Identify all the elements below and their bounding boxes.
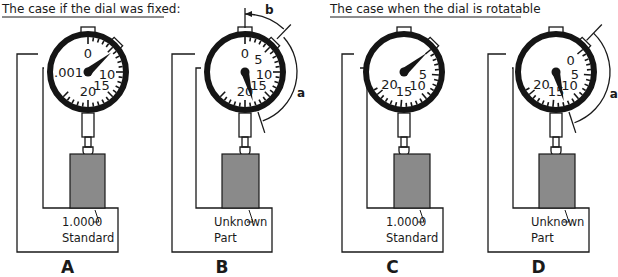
panel-letter-b: B [216,257,229,277]
dial-number: 5 [254,52,262,67]
indicator-spindle [401,137,407,147]
dial-tick [250,37,251,41]
part-label-line2: Part [214,231,237,245]
dial-number: 20 [533,77,550,92]
dial-tick [434,79,438,80]
indicator-spindle [553,137,559,147]
dial-tick [276,67,280,68]
dial-tick [553,100,554,107]
standard-gauge-block [70,154,105,208]
dial-tick [250,103,251,107]
indicator-stem [550,113,562,137]
indicator-spindle [85,137,91,147]
arrow-head [245,11,252,17]
dial-number: 0 [566,53,574,68]
dial-number: 0 [84,46,92,61]
panel-d: 05101520UnknownPartDa [488,25,618,277]
dial-tick [434,64,438,65]
dial-tick [586,64,590,65]
dial-tick [119,67,123,68]
indicator-stem [239,113,251,137]
part-label-line2: Part [531,231,554,245]
dial-tick [396,102,397,106]
part-label-line1: Unknown [531,215,584,229]
needle-hub [552,68,561,77]
indicator-stem [398,113,410,137]
panel-letter-a: A [61,257,75,277]
needle-hub [84,68,93,77]
unknown-part-block [222,154,259,208]
dial-tick [93,37,94,41]
dial-tick [432,74,439,75]
dial-number: 20 [80,84,97,99]
dial-tick [586,79,590,80]
panel-letter-c: C [386,257,398,277]
reading-end-line [258,112,265,133]
dial-unit-label: .001 [54,65,83,80]
dial-tick [83,103,84,107]
unknown-part-block [539,154,575,208]
dial-tick [584,74,591,75]
standard-gauge-block [394,154,430,208]
dial-number: 0 [241,46,249,61]
part-label-line2: Standard [386,231,438,245]
annotation-b: b [265,3,274,17]
panel-letter-d: D [531,257,545,277]
annotation-a: a [297,86,305,100]
panel-c: 51015201.0000StandardC [342,27,443,277]
heading-fixed-dial: The case if the dial was fixed: [1,2,180,16]
panel-a: 0101520.0011.0000StandardA [17,27,126,277]
zero-reference-line [587,25,602,41]
dial-tick [548,102,549,106]
dial-tick [93,103,94,107]
dial-tick [401,100,402,107]
panels: 0101520.0011.0000StandardA05101520Unknow… [17,3,618,277]
needle-hub [241,68,250,77]
part-label-line2: Standard [62,231,114,245]
dial-number: 15 [396,84,413,99]
dial-tick [119,77,123,78]
heading-rotatable-dial: The case when the dial is rotatable [329,2,541,16]
dial-number: 20 [381,77,398,92]
dial-tick [240,103,241,107]
panel-b: 05101520UnknownPartBba [172,3,305,277]
annotation-a: a [610,87,618,101]
needle-hub [400,68,409,77]
offset-end-line [277,25,291,39]
dial-tick [563,102,564,106]
indicator-spindle [242,137,248,147]
indicator-stem [82,113,94,137]
dial-indicator-diagram: The case if the dial was fixed: The case… [0,0,618,277]
dial-tick [276,77,280,78]
dial-tick [411,102,412,106]
part-label-line1: Unknown [214,215,267,229]
